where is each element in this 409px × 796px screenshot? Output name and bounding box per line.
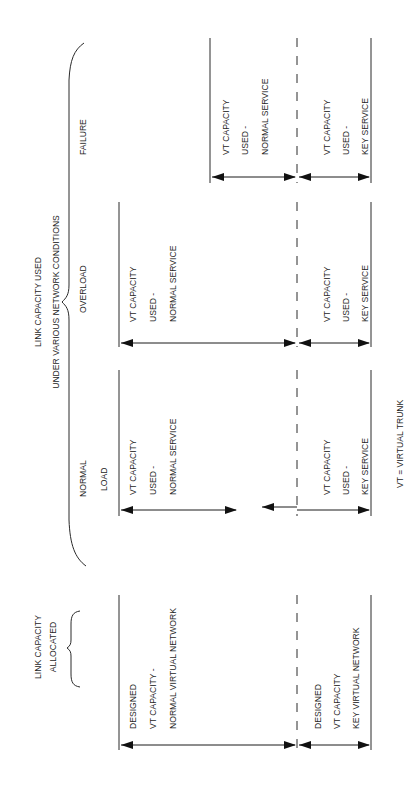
label-used: USED -	[148, 466, 158, 495]
column-allocated: DESIGNED VT CAPACITY - NORMAL VIRTUAL NE…	[119, 595, 371, 750]
arrowhead-icon	[121, 339, 133, 347]
label-vt-capacity: VT CAPACITY	[128, 439, 138, 495]
brace-allocated-icon	[67, 611, 80, 687]
arrowhead-icon	[121, 506, 133, 514]
label-used: USED -	[341, 466, 351, 495]
label-used: USED -	[148, 293, 158, 322]
label-vt-capacity: VT CAPACITY	[332, 673, 342, 729]
header-used-line2: UNDER VARIOUS NETWORK CONDITIONS	[51, 215, 61, 389]
label-key-service: KEY SERVICE	[360, 98, 370, 155]
column-normal-load: VT CAPACITY USED - NORMAL SERVICE VT CAP…	[119, 370, 371, 516]
label-vt-capacity: VT CAPACITY	[221, 99, 231, 155]
condition-failure: FAILURE	[78, 119, 88, 155]
arrowhead-icon	[284, 741, 296, 749]
label-normal-service: NORMAL SERVICE	[260, 78, 270, 155]
arrowhead-icon	[262, 503, 274, 511]
arrowhead-icon	[358, 506, 370, 514]
label-designed: DESIGNED	[313, 684, 323, 729]
arrowhead-icon	[358, 339, 370, 347]
condition-normal-line1: NORMAL	[78, 460, 88, 497]
label-vt-capacity: VT CAPACITY	[322, 266, 332, 322]
arrowhead-icon	[121, 741, 133, 749]
arrowhead-icon	[225, 506, 237, 514]
arrowhead-icon	[212, 173, 224, 181]
legend-vt-virtual-trunk: VT = VIRTUAL TRUNK	[395, 399, 405, 488]
label-normal-service: NORMAL SERVICE	[168, 418, 178, 495]
arrowhead-icon	[299, 741, 311, 749]
label-vt-capacity: VT CAPACITY -	[148, 668, 158, 729]
header-used: LINK CAPACITY USED UNDER VARIOUS NETWORK…	[33, 215, 61, 389]
label-key-service: KEY SERVICE	[360, 265, 370, 322]
arrowhead-icon	[284, 339, 296, 347]
label-normal-virtual-network: NORMAL VIRTUAL NETWORK	[168, 608, 178, 729]
column-failure: VT CAPACITY USED - NORMAL SERVICE VT CAP…	[210, 38, 371, 183]
label-normal-service: NORMAL SERVICE	[168, 245, 178, 322]
label-used: USED -	[341, 126, 351, 155]
column-overload: VT CAPACITY USED - NORMAL SERVICE VT CAP…	[119, 202, 371, 347]
header-used-line1: LINK CAPACITY USED	[33, 257, 43, 347]
label-vt-capacity: VT CAPACITY	[322, 99, 332, 155]
label-designed: DESIGNED	[128, 684, 138, 729]
arrowhead-icon	[358, 173, 370, 181]
header-allocated-line2: ALLOCATED	[48, 622, 58, 672]
arrowhead-icon	[299, 173, 311, 181]
arrowhead-icon	[299, 339, 311, 347]
capacity-diagram: LINK CAPACITY USED UNDER VARIOUS NETWORK…	[0, 0, 409, 796]
condition-normal-line2: LOAD	[99, 468, 109, 491]
header-allocated-line1: LINK CAPACITY	[33, 615, 43, 679]
label-key-service: KEY SERVICE	[360, 438, 370, 495]
label-used: USED -	[240, 126, 250, 155]
label-vt-capacity: VT CAPACITY	[128, 266, 138, 322]
label-used: USED -	[341, 293, 351, 322]
arrowhead-icon	[358, 741, 370, 749]
header-allocated: LINK CAPACITY ALLOCATED	[33, 615, 58, 679]
condition-overload: OVERLOAD	[78, 265, 88, 313]
arrowhead-icon	[284, 173, 296, 181]
label-vt-capacity: VT CAPACITY	[322, 439, 332, 495]
label-key-virtual-network: KEY VIRTUAL NETWORK	[351, 627, 361, 729]
